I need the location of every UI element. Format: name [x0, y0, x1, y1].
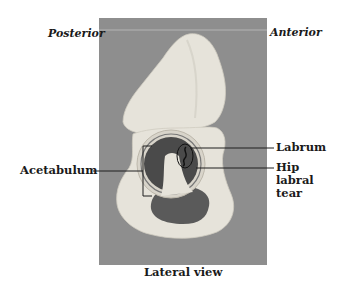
labrum-label: Labrum: [276, 141, 326, 154]
hip-bone-photo: [99, 18, 267, 265]
hip-labral-tear-label: Hip labral tear: [276, 161, 316, 200]
posterior-label: Posterior: [48, 27, 105, 40]
anterior-label: Anterior: [270, 26, 322, 39]
hip-anatomy-figure: Posterior Anterior Acetabulum Labrum Hip…: [0, 0, 338, 282]
figure-caption: Lateral view: [144, 266, 222, 279]
acetabulum-label: Acetabulum: [20, 164, 97, 177]
hip-bone-illustration: [99, 18, 267, 265]
